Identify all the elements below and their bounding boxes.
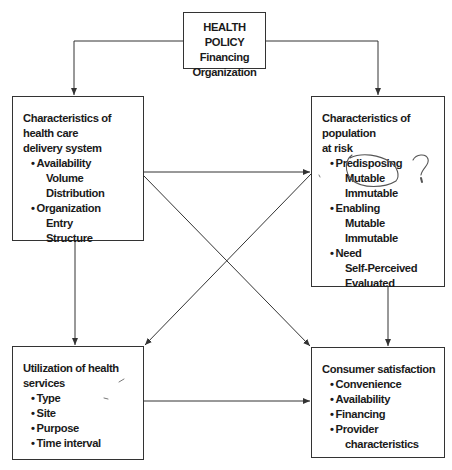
circle-annotation-icon [346,155,398,187]
handwritten-annotations [0,0,452,470]
question-mark-icon [413,155,428,175]
